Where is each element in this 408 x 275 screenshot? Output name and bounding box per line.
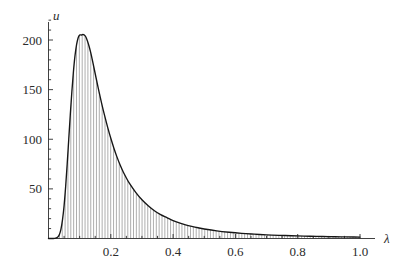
y-tick-label: 100 bbox=[23, 132, 43, 147]
y-axis-label: u bbox=[53, 8, 60, 23]
x-tick-label: 0.6 bbox=[227, 244, 244, 259]
y-axis-ticks bbox=[49, 20, 54, 228]
y-axis-tick-labels: 50100150200 bbox=[23, 33, 43, 197]
y-tick-label: 200 bbox=[23, 33, 43, 48]
x-tick-label: 0.4 bbox=[165, 244, 182, 259]
density-curve bbox=[49, 35, 361, 239]
x-tick-label: 0.2 bbox=[103, 244, 119, 259]
y-tick-label: 50 bbox=[29, 181, 42, 196]
chart-plot-area: 0.20.40.60.81.0 50100150200 u λ bbox=[0, 0, 408, 275]
chart-container: 0.20.40.60.81.0 50100150200 u λ bbox=[0, 0, 408, 275]
x-tick-label: 0.8 bbox=[290, 244, 306, 259]
x-axis-tick-labels: 0.20.40.60.81.0 bbox=[103, 244, 368, 259]
x-tick-label: 1.0 bbox=[352, 244, 368, 259]
area-hatch-fill bbox=[59, 14, 358, 239]
y-tick-label: 150 bbox=[23, 82, 43, 97]
x-axis-label: λ bbox=[383, 231, 390, 246]
